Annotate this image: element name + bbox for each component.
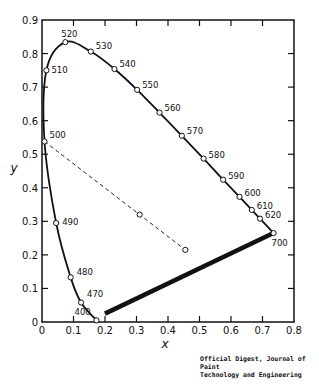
y-tick-label: 0.7 bbox=[22, 82, 38, 93]
wavelength-marker bbox=[257, 216, 262, 221]
y-tick-label: 0 bbox=[32, 317, 38, 328]
wavelength-label: 560 bbox=[164, 103, 180, 113]
wavelength-label: 400 bbox=[74, 307, 90, 317]
wavelength-marker bbox=[157, 110, 162, 115]
wavelength-marker bbox=[63, 40, 68, 45]
wavelength-marker bbox=[271, 230, 276, 235]
wavelength-marker bbox=[94, 318, 99, 323]
y-tick-label: 0.2 bbox=[22, 250, 38, 261]
wavelength-label: 620 bbox=[265, 210, 281, 220]
dominant-wavelength-line bbox=[45, 141, 186, 249]
wavelength-marker bbox=[135, 87, 140, 92]
wavelength-label: 500 bbox=[50, 130, 66, 140]
x-tick-label: 0.3 bbox=[129, 325, 145, 336]
wavelength-marker bbox=[249, 207, 254, 212]
wavelength-label: 570 bbox=[187, 126, 203, 136]
y-axis-title: y bbox=[9, 161, 18, 175]
x-tick-label: 0.2 bbox=[97, 325, 113, 336]
wavelength-label: 510 bbox=[51, 65, 67, 75]
x-tick-label: 0.6 bbox=[223, 325, 239, 336]
wavelength-label: 540 bbox=[119, 59, 135, 69]
x-tick-label: 0.8 bbox=[286, 325, 302, 336]
wavelength-marker bbox=[42, 139, 47, 144]
wavelength-label: 590 bbox=[228, 171, 244, 181]
y-tick-label: 0.5 bbox=[22, 149, 38, 160]
y-tick-label: 0.6 bbox=[22, 116, 38, 127]
wavelength-label: 520 bbox=[61, 29, 77, 39]
y-tick-label: 0.4 bbox=[22, 183, 38, 194]
y-tick-label: 0.8 bbox=[22, 49, 38, 60]
y-tick-label: 0.9 bbox=[22, 15, 38, 26]
wavelength-label: 480 bbox=[77, 267, 93, 277]
wavelength-marker bbox=[78, 300, 83, 305]
credit-line-2: Technology and Engineering bbox=[200, 371, 319, 379]
wavelength-marker bbox=[201, 156, 206, 161]
wavelength-label: 530 bbox=[96, 41, 112, 51]
wavelength-marker bbox=[237, 194, 242, 199]
purple-line bbox=[105, 233, 274, 314]
y-tick-label: 0.3 bbox=[22, 216, 38, 227]
data-series: 4004704804905005105205305405505605705805… bbox=[42, 29, 288, 323]
x-tick-label: 0.5 bbox=[192, 325, 208, 336]
y-tick-label: 0.1 bbox=[22, 283, 38, 294]
point-marker bbox=[183, 247, 188, 252]
wavelength-label: 490 bbox=[62, 217, 78, 227]
wavelength-label: 580 bbox=[209, 150, 225, 160]
x-tick-label: 0.4 bbox=[160, 325, 176, 336]
wavelength-label: 700 bbox=[272, 238, 288, 248]
x-tick-label: 0 bbox=[39, 325, 45, 336]
wavelength-marker bbox=[68, 275, 73, 280]
wavelength-marker bbox=[179, 133, 184, 138]
wavelength-label: 550 bbox=[142, 80, 158, 90]
x-tick-label: 0.7 bbox=[255, 325, 271, 336]
chromaticity-chart: 00.10.20.30.40.50.60.70.800.10.20.30.40.… bbox=[0, 0, 319, 386]
point-marker bbox=[137, 212, 142, 217]
wavelength-marker bbox=[88, 49, 93, 54]
x-axis-title: x bbox=[160, 337, 169, 351]
wavelength-marker bbox=[54, 220, 59, 225]
spectrum-locus bbox=[43, 41, 273, 320]
wavelength-label: 470 bbox=[87, 289, 103, 299]
wavelength-label: 600 bbox=[245, 188, 261, 198]
x-tick-label: 0.1 bbox=[66, 325, 82, 336]
source-credit: Official Digest, Journal of Paint Techno… bbox=[200, 355, 319, 379]
wavelength-marker bbox=[44, 68, 49, 73]
credit-line-1: Official Digest, Journal of Paint bbox=[200, 355, 319, 371]
wavelength-marker bbox=[221, 177, 226, 182]
wavelength-marker bbox=[112, 66, 117, 71]
